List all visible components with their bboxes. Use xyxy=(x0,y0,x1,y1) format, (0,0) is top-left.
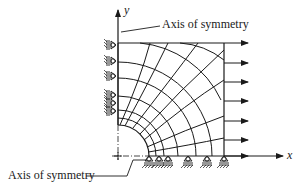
plate-outline xyxy=(118,43,224,156)
mesh-arcs xyxy=(118,43,224,156)
left-rollers xyxy=(104,39,116,116)
origin-mark xyxy=(114,152,122,160)
y-axis-label: y xyxy=(124,3,129,18)
x-axis-label: x xyxy=(287,148,292,163)
top-symmetry-label: Axis of symmetry xyxy=(162,17,249,32)
load-arrows xyxy=(224,43,248,156)
bottom-rollers xyxy=(142,156,229,168)
plate-with-hole-diagram xyxy=(0,0,306,187)
bottom-symmetry-label: Axis of symmetry xyxy=(8,168,95,183)
